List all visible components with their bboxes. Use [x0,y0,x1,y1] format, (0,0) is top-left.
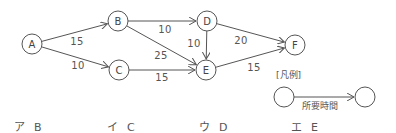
answer-choices: アB イC ウD エE [0,118,396,132]
edge-weight-label: 15 [247,62,261,73]
edge-weight-label: 15 [155,72,169,83]
choice-kana: エ [291,118,311,133]
edge-d-f [217,24,285,42]
choice-value: E [311,121,318,133]
choice-u[interactable]: ウD [199,118,227,133]
choice-value: D [219,121,227,133]
node-label: B [115,16,122,27]
edge-weight-label: 10 [71,60,85,71]
node-label: C [116,65,123,76]
edge-weight-label: 15 [70,36,84,47]
node-label: A [29,39,36,50]
legend-start-node [274,87,294,107]
legend-edge-label: 所要時間 [302,101,338,111]
legend-title: [凡例] [276,69,301,80]
node-label: D [203,16,211,27]
node-b: B [108,11,128,31]
legend: [凡例] 所要時間 [274,69,375,111]
choice-kana: イ [107,118,127,133]
edge-weight-label: 10 [158,24,172,35]
choice-value: B [34,121,42,133]
edges-group: 1510102515102015 [42,21,285,83]
node-f: F [285,35,305,55]
node-e: E [196,60,216,80]
node-d: D [197,11,217,31]
edge-weight-label: 25 [154,50,168,61]
node-label: E [203,65,209,76]
node-a: A [22,34,42,54]
network-diagram: 1510102515102015 ABCDEF [凡例] 所要時間 [0,0,396,133]
edge-weight-label: 20 [234,35,248,46]
choice-i[interactable]: イC [107,118,135,133]
choice-a[interactable]: アB [14,118,42,133]
choice-kana: ア [14,118,34,133]
legend-end-node [355,87,375,107]
edge-weight-label: 10 [187,38,201,49]
node-c: C [109,60,129,80]
choice-kana: ウ [199,118,219,133]
node-label: F [292,40,298,51]
edge-d-e [206,31,207,59]
choice-value: C [127,121,135,133]
choice-e[interactable]: エE [291,118,318,133]
